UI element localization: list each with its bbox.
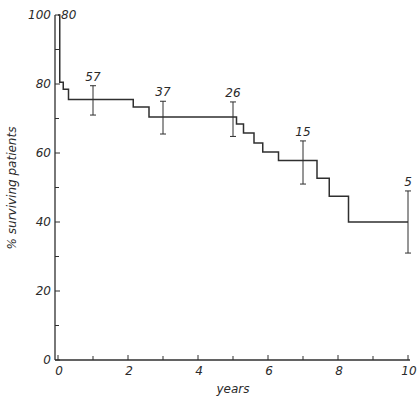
axes: 0204060801000246810 (28, 8, 417, 378)
y-tick-label: 80 (36, 77, 52, 91)
x-tick-label: 2 (125, 364, 133, 378)
y-tick-label: 60 (36, 146, 52, 160)
y-tick-label: 0 (43, 353, 51, 367)
survival-chart: 0204060801000246810 80573726155 years % … (0, 0, 418, 401)
y-tick-label: 40 (36, 215, 52, 229)
annotations: 80573726155 (61, 8, 412, 189)
x-tick-label: 0 (55, 364, 63, 378)
error-bars (90, 86, 411, 253)
at-risk-count: 57 (85, 70, 101, 84)
x-tick-label: 8 (335, 364, 343, 378)
at-risk-count: 80 (61, 8, 77, 22)
y-tick-label: 100 (28, 8, 51, 22)
y-axis-title: % surviving patients (5, 127, 19, 250)
at-risk-count: 15 (295, 125, 310, 139)
x-tick-label: 4 (195, 364, 203, 378)
y-tick-label: 20 (36, 284, 52, 298)
x-tick-label: 6 (265, 364, 273, 378)
at-risk-count: 37 (155, 85, 171, 99)
at-risk-count: 26 (225, 86, 241, 100)
x-tick-label: 10 (401, 364, 417, 378)
x-axis-title: years (215, 382, 249, 396)
at-risk-count: 5 (404, 175, 412, 189)
